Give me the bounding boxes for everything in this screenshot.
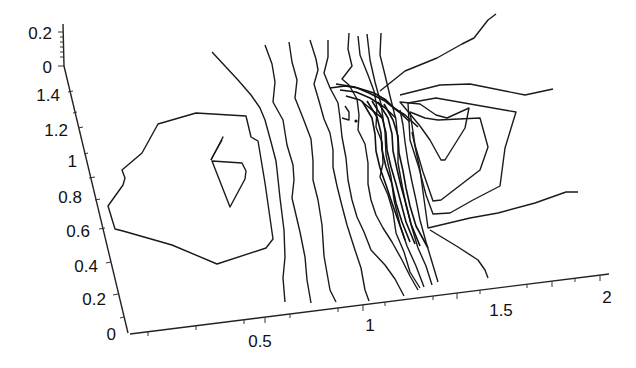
x-tick-label: 1.5 <box>489 301 513 320</box>
x-axis: 0.5 1 1.5 2 <box>130 274 612 351</box>
y-tick-label: 0.2 <box>82 290 106 309</box>
y-axis: 1.4 1.2 1 0.8 0.6 0.4 0.2 0 <box>36 66 128 344</box>
contour-plot: 0.2 0 1.4 1.2 1 0.8 0.6 0.4 0.2 0 <box>0 0 636 368</box>
x-tick-label: 2 <box>602 288 611 307</box>
z-axis: 0.2 0 <box>28 24 64 77</box>
y-tick-label: 0 <box>107 325 116 344</box>
y-tick-label: 1 <box>68 152 77 171</box>
x-tick-label: 0.5 <box>248 332 272 351</box>
z-tick-label: 0 <box>43 58 52 77</box>
x-tick-label: 1 <box>365 316 374 335</box>
y-tick-label: 0.4 <box>74 257 98 276</box>
y-tick-label: 0.8 <box>58 188 82 207</box>
y-tick-label: 0.6 <box>66 222 90 241</box>
y-tick-label: 1.2 <box>44 121 68 140</box>
y-tick-label: 1.4 <box>36 86 60 105</box>
z-tick-label: 0.2 <box>28 24 52 43</box>
contour-lines <box>108 14 578 303</box>
